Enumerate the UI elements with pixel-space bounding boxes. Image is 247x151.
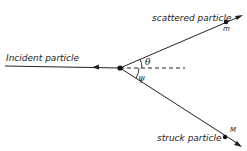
incident-label: Incident particle xyxy=(6,53,80,63)
collision-point-dot xyxy=(117,65,122,70)
struck-label: struck particle xyxy=(157,133,222,143)
scattered-path xyxy=(120,16,241,68)
incident-arrow-icon xyxy=(92,65,99,70)
struck-mass-label: M xyxy=(230,126,236,134)
scattering-diagram: Incident particle scattered particle m s… xyxy=(0,0,247,151)
psi-symbol: ψ xyxy=(138,73,146,83)
scattered-arrow-icon xyxy=(235,15,243,20)
theta-symbol: θ xyxy=(145,57,151,67)
scattered-label: scattered particle xyxy=(152,13,232,23)
scattered-mass-label: m xyxy=(223,25,230,33)
struck-particle-dot xyxy=(223,135,227,139)
incident-path xyxy=(5,66,120,68)
theta-arc xyxy=(140,59,142,68)
